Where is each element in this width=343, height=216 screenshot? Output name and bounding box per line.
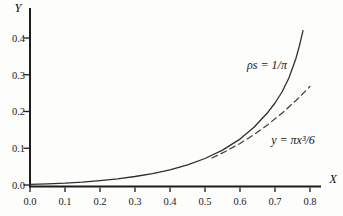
y-tick-label: 0.4 — [12, 33, 26, 44]
x-tick-label: 0.2 — [93, 196, 106, 207]
x-tick-labels: 0.0 0.1 0.2 0.3 0.4 0.5 0.6 0.7 0.8 — [23, 196, 316, 207]
x-tick-label: 0.7 — [268, 196, 281, 207]
y-tick-label: 0.0 — [12, 180, 25, 191]
solid-curve-label: ρs = 1/π — [246, 58, 288, 72]
x-axis-title: X — [328, 172, 338, 186]
x-tick-label: 0.8 — [303, 196, 316, 207]
solid-curve — [30, 31, 303, 185]
x-tick-label: 0.6 — [233, 196, 246, 207]
y-tick-label: 0.1 — [12, 143, 25, 154]
x-tick-label: 0.1 — [58, 196, 71, 207]
y-tick-label: 0.2 — [12, 106, 25, 117]
y-axis-title: Y — [15, 1, 24, 15]
figure: 0.0 0.1 0.2 0.3 0.4 0.5 0.6 0.7 0.8 0.0 … — [0, 0, 343, 216]
curves — [30, 31, 310, 185]
x-tick-label: 0.4 — [163, 196, 177, 207]
dashed-curve-label: y = πx³/6 — [270, 133, 315, 147]
x-tick-label: 0.5 — [198, 196, 211, 207]
axes — [29, 8, 321, 188]
x-tick-label: 0.3 — [128, 196, 141, 207]
x-tick-label: 0.0 — [23, 196, 36, 207]
y-tick-label: 0.3 — [12, 70, 25, 81]
y-tick-labels: 0.0 0.1 0.2 0.3 0.4 — [12, 33, 26, 191]
chart: 0.0 0.1 0.2 0.3 0.4 0.5 0.6 0.7 0.8 0.0 … — [0, 0, 343, 216]
x-ticks — [30, 188, 310, 193]
